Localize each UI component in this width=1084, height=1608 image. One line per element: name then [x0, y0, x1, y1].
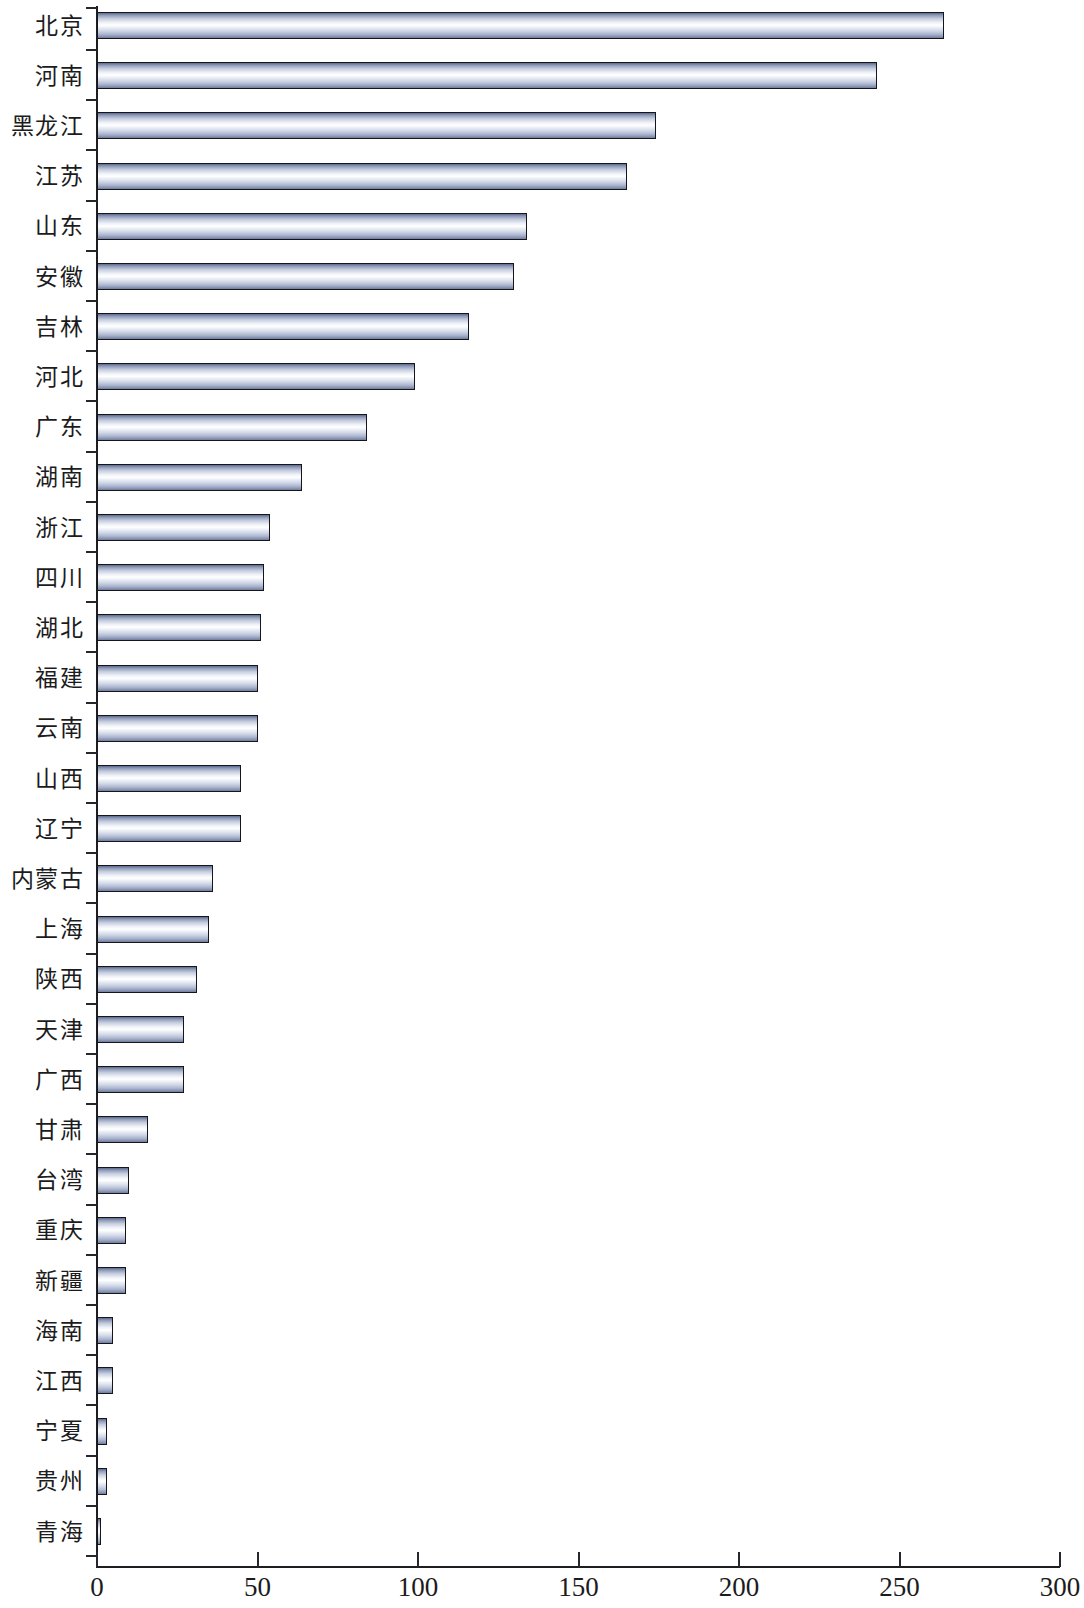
x-axis-tick — [257, 1552, 259, 1567]
y-axis-tick — [86, 1404, 97, 1406]
bar-row: 湖南 — [0, 460, 1069, 510]
category-label: 天津 — [0, 1017, 84, 1043]
bar-row: 云南 — [0, 711, 1069, 761]
bar — [97, 1217, 126, 1244]
bar-row: 安徽 — [0, 259, 1069, 309]
bar-row: 山东 — [0, 209, 1069, 259]
category-label: 吉林 — [0, 314, 84, 340]
category-label: 陕西 — [0, 966, 84, 992]
y-axis-tick — [86, 852, 97, 854]
category-label: 广东 — [0, 414, 84, 440]
bar-row: 陕西 — [0, 962, 1069, 1012]
x-axis-tick-label: 300 — [1015, 1570, 1084, 1604]
bar-row: 海南 — [0, 1313, 1069, 1363]
category-label: 青海 — [0, 1519, 84, 1545]
x-axis-tick — [899, 1552, 901, 1567]
y-axis-tick — [86, 601, 97, 603]
category-label: 四川 — [0, 565, 84, 591]
y-axis-tick — [86, 1505, 97, 1507]
bar-row: 辽宁 — [0, 811, 1069, 861]
y-axis-tick — [86, 501, 97, 503]
bar — [97, 916, 209, 943]
bar — [97, 815, 241, 842]
bar — [97, 414, 367, 441]
y-axis-tick — [86, 49, 97, 51]
bar — [97, 715, 258, 742]
bar — [97, 865, 213, 892]
bar — [97, 263, 514, 290]
bar — [97, 765, 241, 792]
y-axis-tick — [86, 651, 97, 653]
bar — [97, 1468, 107, 1495]
category-label: 北京 — [0, 13, 84, 39]
bar-row: 广西 — [0, 1062, 1069, 1112]
category-label: 湖南 — [0, 464, 84, 490]
category-label: 云南 — [0, 715, 84, 741]
x-axis-tick — [738, 1552, 740, 1567]
category-label: 广西 — [0, 1067, 84, 1093]
bar-row: 黑龙江 — [0, 108, 1069, 158]
bar — [97, 112, 656, 139]
y-axis-tick — [86, 1304, 97, 1306]
category-label: 贵州 — [0, 1468, 84, 1494]
bar — [97, 966, 197, 993]
bar — [97, 163, 627, 190]
category-label: 上海 — [0, 916, 84, 942]
category-label: 安徽 — [0, 264, 84, 290]
y-axis-tick — [86, 451, 97, 453]
category-label: 新疆 — [0, 1268, 84, 1294]
y-axis-tick — [86, 802, 97, 804]
y-axis-tick — [86, 1254, 97, 1256]
bar-row: 甘肃 — [0, 1112, 1069, 1162]
category-label: 浙江 — [0, 515, 84, 541]
bar-row: 天津 — [0, 1012, 1069, 1062]
y-axis-tick — [86, 1053, 97, 1055]
bar — [97, 614, 261, 641]
category-label: 黑龙江 — [0, 113, 84, 139]
y-axis-tick — [86, 350, 97, 352]
y-axis-tick — [86, 149, 97, 151]
x-axis-tick-label: 100 — [373, 1570, 463, 1604]
bar — [97, 12, 944, 39]
y-axis-tick — [86, 1103, 97, 1105]
bar — [97, 363, 415, 390]
y-axis-tick — [86, 7, 97, 9]
bar-row: 山西 — [0, 761, 1069, 811]
bar — [97, 1518, 101, 1545]
bar-row: 内蒙古 — [0, 861, 1069, 911]
category-label: 福建 — [0, 665, 84, 691]
category-label: 江苏 — [0, 163, 84, 189]
y-axis-tick — [86, 1354, 97, 1356]
category-label: 甘肃 — [0, 1117, 84, 1143]
bar-row: 上海 — [0, 912, 1069, 962]
x-axis-tick-label: 50 — [213, 1570, 303, 1604]
bar-row: 青海 — [0, 1514, 1069, 1564]
bar-row: 浙江 — [0, 510, 1069, 560]
bar-row: 江苏 — [0, 159, 1069, 209]
bar — [97, 1418, 107, 1445]
bar-row: 贵州 — [0, 1464, 1069, 1514]
y-axis-tick — [86, 902, 97, 904]
y-axis-tick — [86, 1003, 97, 1005]
bar-row: 北京 — [0, 8, 1069, 58]
y-axis-tick — [86, 250, 97, 252]
category-label: 海南 — [0, 1318, 84, 1344]
bar-rows-container: 北京河南黑龙江江苏山东安徽吉林河北广东湖南浙江四川湖北福建云南山西辽宁内蒙古上海… — [0, 0, 1069, 1568]
bar — [97, 1116, 148, 1143]
bar — [97, 62, 877, 89]
bar-row: 重庆 — [0, 1213, 1069, 1263]
category-label: 湖北 — [0, 615, 84, 641]
bar — [97, 213, 527, 240]
bar — [97, 564, 264, 591]
bar — [97, 464, 302, 491]
x-axis-tick — [578, 1552, 580, 1567]
category-label: 江西 — [0, 1368, 84, 1394]
bar — [97, 1016, 184, 1043]
bar — [97, 313, 469, 340]
y-axis-tick — [86, 1204, 97, 1206]
category-label: 河北 — [0, 364, 84, 390]
bar — [97, 665, 258, 692]
bar-row: 台湾 — [0, 1163, 1069, 1213]
